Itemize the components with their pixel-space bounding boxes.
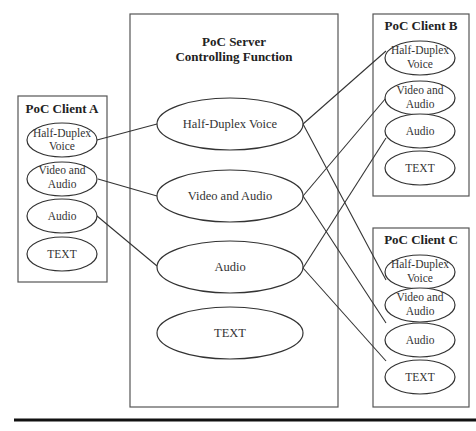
server-function-label: Half-Duplex Voice <box>183 117 278 131</box>
client-a-title: PoC Client A <box>26 101 100 116</box>
server-function-label: TEXT <box>214 326 246 340</box>
function-label: Half-Duplex <box>391 44 449 57</box>
server-function-video-audio: Video and Audio <box>157 170 303 222</box>
function-label: TEXT <box>405 371 434 383</box>
function-label: TEXT <box>405 162 434 174</box>
client-a-function-video-audio: Video and Audio <box>27 162 97 196</box>
client-c-function-video-audio: Video and Audio <box>385 288 455 322</box>
function-label: TEXT <box>47 248 76 260</box>
link-a-hdv <box>97 124 157 140</box>
client-a-function-audio: Audio <box>27 199 97 233</box>
function-label: Half-Duplex <box>391 258 449 271</box>
function-label: Half-Duplex <box>33 127 91 140</box>
link-a-audio <box>97 216 157 266</box>
function-label: Video and <box>397 84 444 96</box>
client-b-function-audio: Audio <box>385 114 455 148</box>
server-function-audio: Audio <box>157 241 303 293</box>
function-label: Audio <box>48 210 77 222</box>
server-title-line1: PoC Server <box>202 34 266 49</box>
function-label: Video and <box>39 164 86 176</box>
client-a-function-hdv: Half-Duplex Voice <box>27 123 97 157</box>
client-c-function-hdv: Half-Duplex Voice <box>385 255 455 289</box>
function-label: Voice <box>407 58 433 70</box>
function-label: Voice <box>407 272 433 284</box>
client-b-function-video-audio: Video and Audio <box>385 81 455 115</box>
client-a-function-text: TEXT <box>27 237 97 271</box>
server-function-text: TEXT <box>157 307 303 359</box>
function-label: Video and <box>397 291 444 303</box>
function-label: Audio <box>406 334 435 346</box>
function-label: Audio <box>406 98 435 110</box>
function-label: Audio <box>48 178 77 190</box>
function-label: Voice <box>49 140 75 152</box>
server-title-line2: Controlling Function <box>175 49 293 64</box>
client-b-title: PoC Client B <box>385 18 458 33</box>
function-label: Audio <box>406 305 435 317</box>
server-function-label: Video and Audio <box>188 189 273 203</box>
server-function-label: Audio <box>214 260 245 274</box>
server-function-hdv: Half-Duplex Voice <box>157 98 303 150</box>
client-b-function-text: TEXT <box>385 151 455 185</box>
poc-diagram: PoC Server Controlling Function Half-Dup… <box>0 0 476 431</box>
client-c-title: PoC Client C <box>384 232 458 247</box>
client-c-function-text: TEXT <box>385 360 455 394</box>
client-c-function-audio: Audio <box>385 323 455 357</box>
function-label: Audio <box>406 125 435 137</box>
client-b-function-hdv: Half-Duplex Voice <box>385 41 455 75</box>
